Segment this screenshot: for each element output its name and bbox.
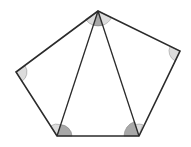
angle-marks bbox=[16, 11, 180, 136]
pentagon-diagram bbox=[0, 0, 191, 147]
diagonal-top-to-bottom-right bbox=[98, 11, 139, 136]
pentagon-outline bbox=[16, 11, 180, 136]
diagonal-top-to-bottom-left bbox=[57, 11, 98, 136]
